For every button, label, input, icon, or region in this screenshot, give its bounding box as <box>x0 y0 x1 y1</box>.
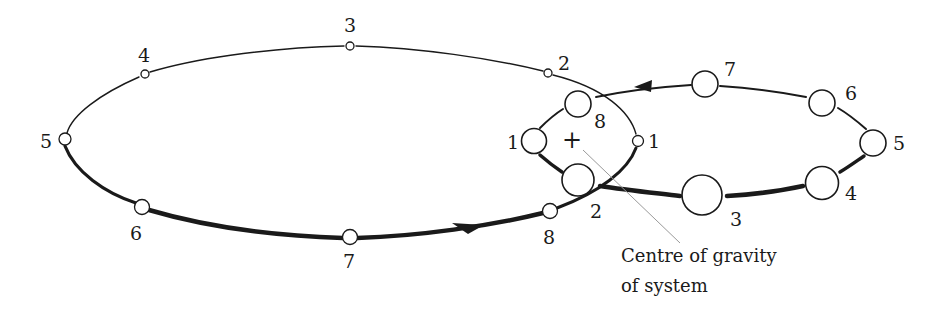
large-star-position-8 <box>565 91 591 117</box>
large-star-position-5 <box>860 130 886 156</box>
small-star-position-6 <box>135 200 150 215</box>
label-small-6: 6 <box>130 222 142 244</box>
small-star-position-2 <box>544 69 552 77</box>
label-large-2: 2 <box>590 200 602 222</box>
small-star-position-1 <box>633 136 644 147</box>
small-star-position-7 <box>343 230 358 245</box>
label-large-1: 1 <box>507 131 519 153</box>
centre-caption-line2: of system <box>621 275 708 296</box>
label-small-7: 7 <box>343 250 355 272</box>
binary-orbit-diagram: + 1 2 3 4 5 6 7 8 1 2 3 4 5 <box>0 0 940 314</box>
centre-caption-line1: Centre of gravity <box>621 245 777 266</box>
label-small-4: 4 <box>138 44 150 66</box>
centre-of-gravity-marker: + <box>562 126 582 154</box>
large-star-position-3 <box>682 175 722 215</box>
large-orbit-thick-arc <box>65 146 136 203</box>
label-large-7: 7 <box>724 58 736 80</box>
label-large-5: 5 <box>893 132 905 154</box>
large-star-position-2 <box>562 164 594 196</box>
label-large-6: 6 <box>845 82 857 104</box>
small-star-position-3 <box>346 42 354 50</box>
label-small-1: 1 <box>648 130 660 152</box>
label-small-3: 3 <box>344 14 356 36</box>
large-star-position-6 <box>809 90 835 116</box>
label-large-4: 4 <box>845 182 857 204</box>
large-star-position-7 <box>692 71 718 97</box>
large-star-position-4 <box>806 167 839 200</box>
label-large-8: 8 <box>594 110 606 132</box>
large-orbit-positions <box>59 42 644 245</box>
small-star-position-8 <box>543 204 558 219</box>
large-orbit-thin-arc <box>67 46 636 134</box>
small-star-position-4 <box>141 70 149 78</box>
label-large-3: 3 <box>730 208 742 230</box>
label-small-5: 5 <box>40 130 52 152</box>
label-small-8: 8 <box>543 226 555 248</box>
large-star-position-1 <box>522 129 547 154</box>
label-small-2: 2 <box>558 52 570 74</box>
small-star-position-5 <box>59 133 71 145</box>
